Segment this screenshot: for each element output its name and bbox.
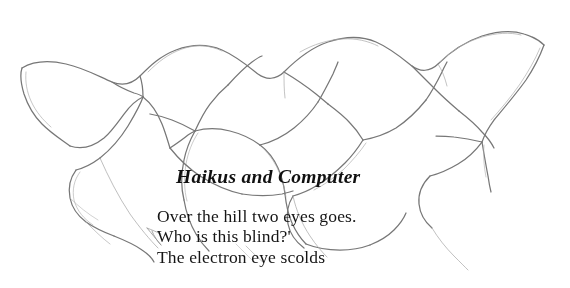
poem-line: The electron eye scolds — [157, 247, 325, 268]
poem-title: Haikus and Computer — [176, 166, 361, 188]
scanned-page: Haikus and Computer Over the hill two ey… — [0, 0, 570, 288]
poem-line: Over the hill two eyes goes. — [157, 206, 357, 227]
poem-text-layer: Haikus and Computer Over the hill two ey… — [0, 0, 570, 288]
poem-line: Who is this blind?' — [157, 226, 291, 247]
